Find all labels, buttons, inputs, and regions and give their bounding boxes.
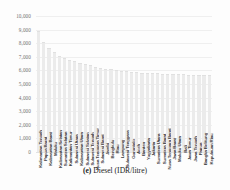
bar <box>140 73 143 152</box>
y-axis-tick-label: 8,000 <box>19 40 31 46</box>
bar <box>115 70 118 152</box>
y-axis-tick-label: 6,000 <box>19 67 31 73</box>
bar <box>197 75 200 152</box>
figure-panel: 10,0009,0008,0007,0006,0005,0004,0003,00… <box>0 0 230 190</box>
y-axis-tick-label: 0 <box>28 149 31 155</box>
y-axis-tick-label: 2,000 <box>19 122 31 128</box>
caption-tag: (e) <box>83 166 91 175</box>
y-axis-tick-label: 3,000 <box>19 108 31 114</box>
bar <box>42 42 45 152</box>
bar <box>53 52 56 152</box>
y-axis-tick-label: 5,000 <box>19 81 31 87</box>
bar <box>151 73 154 152</box>
bar-slot: Kepulauan Riau <box>207 16 212 152</box>
figure-caption: (e) Diesel (IDR/litre) <box>0 166 230 175</box>
bar-series: Kalimantan TengahPapua BaratKalimantan B… <box>36 16 212 152</box>
bar <box>135 72 138 152</box>
bar <box>182 74 185 152</box>
y-axis-tick-label: 7,000 <box>19 54 31 60</box>
y-axis: 10,0009,0008,0007,0006,0005,0004,0003,00… <box>0 16 34 152</box>
y-axis-tick-label: 10,000 <box>16 13 31 19</box>
y-axis-tick-label: 1,000 <box>19 135 31 141</box>
bar <box>104 69 107 152</box>
caption-text: Diesel (IDR/litre) <box>93 166 147 175</box>
y-axis-tick-label: 4,000 <box>19 95 31 101</box>
plot-area: Kalimantan TengahPapua BaratKalimantan B… <box>36 16 212 152</box>
y-axis-tick-label: 9,000 <box>19 27 31 33</box>
